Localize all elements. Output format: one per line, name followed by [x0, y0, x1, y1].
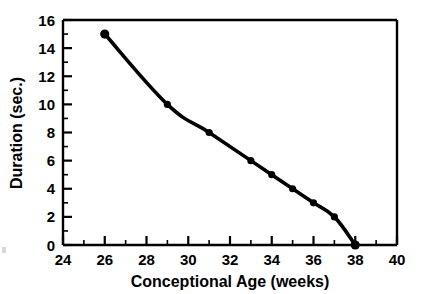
x-axis-tick-labels: 242628303234363840 — [55, 251, 406, 268]
x-tick-label: 38 — [347, 251, 364, 268]
data-point-marker — [331, 213, 338, 220]
data-point-marker — [206, 129, 213, 136]
chart-figure: 0246810121416 242628303234363840 Duratio… — [0, 0, 428, 294]
x-tick-label: 26 — [96, 251, 113, 268]
x-tick-label: 40 — [389, 251, 406, 268]
data-point-marker — [289, 185, 296, 192]
data-point-marker — [247, 157, 254, 164]
y-tick-label: 10 — [38, 96, 55, 113]
x-tick-label: 24 — [55, 251, 72, 268]
duration-vs-conceptional-age-chart: 0246810121416 242628303234363840 Duratio… — [0, 0, 428, 294]
scan-artifact — [2, 247, 6, 253]
data-point-marker — [100, 29, 109, 38]
data-point-marker — [164, 101, 171, 108]
data-point-marker — [268, 171, 275, 178]
x-axis-title: Conceptional Age (weeks) — [131, 273, 330, 290]
x-tick-label: 28 — [138, 251, 155, 268]
y-tick-label: 14 — [38, 40, 55, 57]
data-point-marker — [351, 240, 360, 249]
y-tick-label: 12 — [38, 68, 55, 85]
x-tick-label: 36 — [305, 251, 322, 268]
x-tick-label: 30 — [180, 251, 197, 268]
y-tick-label: 8 — [47, 124, 55, 141]
x-tick-label: 32 — [222, 251, 239, 268]
y-tick-label: 2 — [47, 208, 55, 225]
y-tick-label: 4 — [47, 180, 56, 197]
y-tick-label: 6 — [47, 152, 55, 169]
data-point-marker — [310, 199, 317, 206]
y-tick-label: 16 — [38, 12, 55, 29]
x-tick-label: 34 — [263, 251, 280, 268]
y-axis-title: Duration (sec.) — [8, 77, 25, 189]
